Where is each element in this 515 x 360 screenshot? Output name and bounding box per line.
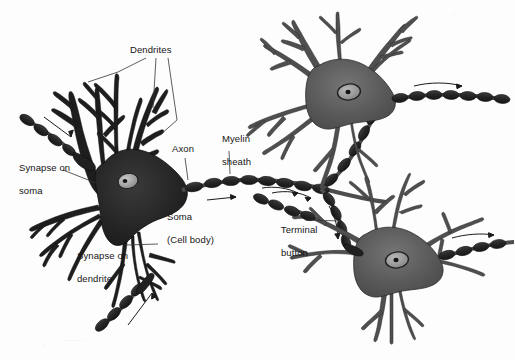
label-synapse-on-soma-line1: Synapse on	[19, 162, 70, 173]
label-synapse-on-soma-line2: soma	[19, 185, 43, 196]
leader-axon	[185, 158, 188, 180]
conduction-arrow-top-right	[414, 83, 462, 89]
axon-top-right-outgoing	[392, 83, 511, 104]
label-synapse-on-soma: Synapse on soma	[8, 150, 70, 208]
label-dendrites: Dendrites	[130, 44, 172, 56]
leader-synapse-on-dendrite	[126, 244, 158, 245]
label-axon: Axon	[172, 143, 194, 155]
nucleolus-bottom-right	[393, 258, 398, 262]
label-soma-cell-body: Soma (Cell body)	[156, 199, 214, 257]
nucleolus-left	[123, 179, 128, 183]
label-synapse-on-dendrite-line2: dendrite	[77, 273, 112, 284]
label-synapse-on-dendrite-line1: Synapse on	[77, 250, 128, 261]
label-terminal-button-line1: Terminal	[281, 224, 318, 235]
label-soma-line1: Soma	[167, 211, 192, 222]
label-myelin-sheath-line1: Myelin	[222, 133, 250, 144]
label-myelin-sheath: Myelin sheath	[211, 121, 251, 179]
label-synapse-on-dendrite: Synapse on dendrite	[66, 238, 128, 296]
label-soma-line2: (Cell body)	[167, 234, 214, 245]
figure-canvas: Dendrites Synapse on soma Axon Myelin sh…	[0, 0, 515, 360]
neuron-top-right	[246, 12, 510, 189]
nucleolus-top-right	[345, 90, 350, 94]
label-terminal-button-line2: button	[281, 247, 308, 258]
label-myelin-sheath-line2: sheath	[222, 156, 251, 167]
conduction-arrow-bottom-right-outgoing	[452, 233, 494, 238]
neuron-diagram-illustration	[0, 0, 515, 360]
axon-bottom-right-outgoing	[438, 233, 514, 262]
myelin-sheath-top-right-outgoing	[392, 90, 511, 104]
label-terminal-button: Terminal button	[270, 212, 318, 270]
